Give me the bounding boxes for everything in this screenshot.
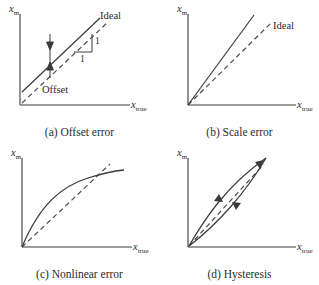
y-axis-label-a: xm (9, 3, 19, 14)
y-axis-label-c: xm (11, 147, 21, 158)
offset-label-a: Offset (42, 84, 68, 95)
y-axis-label-b: xm (177, 3, 187, 14)
caption-b: (b) Scale error (160, 126, 319, 138)
panel-scale-error: xm xtrue Ideal (b) Scale error (160, 0, 319, 142)
offset-arrow-head-down (47, 42, 54, 50)
y-axis-label-d: xm (177, 147, 187, 158)
offset-arrow (47, 34, 54, 78)
ideal-line-dashed (189, 164, 264, 246)
sensor-error-figure: xm xtrue Ideal Offset 1 1 (a) Offset err… (0, 0, 319, 285)
caption-a: (a) Offset error (0, 126, 159, 138)
ideal-line-dashed (22, 164, 110, 247)
panel-nonlinear-error-plot (0, 142, 159, 284)
panel-hysteresis: xm xtrue (d) Hysteresis (160, 142, 319, 284)
measured-line-solid (22, 18, 100, 92)
ideal-label-b: Ideal (273, 20, 294, 31)
x-axis-label-c: xtrue (133, 241, 149, 252)
x-axis-label-a: xtrue (131, 99, 147, 110)
caption-c: (c) Nonlinear error (0, 268, 159, 280)
measured-curve-solid (22, 170, 124, 247)
panel-scale-error-plot (160, 0, 319, 142)
slope-run-label-a: 1 (80, 54, 85, 64)
slope-rise-label-a: 1 (95, 36, 100, 46)
ideal-label-a: Ideal (100, 10, 121, 21)
arrow-head-decreasing (232, 202, 241, 210)
x-axis-label-b: xtrue (297, 99, 313, 110)
ideal-line-dashed (188, 22, 272, 105)
caption-d: (d) Hysteresis (160, 268, 319, 280)
panel-offset-error: xm xtrue Ideal Offset 1 1 (a) Offset err… (0, 0, 159, 142)
panel-hysteresis-plot (160, 142, 319, 284)
measured-line-solid (188, 15, 254, 105)
x-axis-label-d: xtrue (297, 241, 313, 252)
slope-triangle (74, 34, 92, 52)
panel-nonlinear-error: xm xtrue (c) Nonlinear error (0, 142, 159, 284)
panel-offset-error-plot (0, 0, 159, 142)
